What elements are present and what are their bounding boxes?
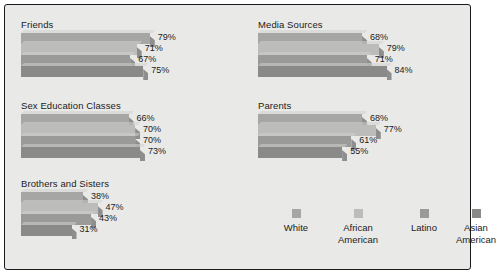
legend-label-line1: Asian <box>448 222 501 234</box>
group-title: Media Sources <box>258 19 453 30</box>
group-title: Sex Education Classes <box>21 100 226 111</box>
bar-asian-american <box>258 66 387 77</box>
chart-legend: WhiteAfricanAmericanLatinoAsianAmerican <box>258 209 458 257</box>
legend-swatch <box>420 209 429 218</box>
bar-asian-american <box>21 147 140 158</box>
bar-value-label: 61% <box>359 135 377 145</box>
group-title: Brothers and Sisters <box>21 178 226 189</box>
bar-value-label: 55% <box>350 146 368 156</box>
bar-value-label: 71% <box>375 54 393 64</box>
bar-value-label: 67% <box>138 54 156 64</box>
bar-asian-american <box>21 66 143 77</box>
bar-value-label: 79% <box>158 32 176 42</box>
legend-item-white[interactable]: White <box>268 209 324 234</box>
bar-group: 38%47%43%31% <box>21 192 226 236</box>
bar-value-label: 70% <box>143 135 161 145</box>
chart-group-parents: Parents 68%77%61%55% <box>258 100 453 158</box>
bar-end-cap <box>143 69 148 80</box>
bar-group: 79%71%67%75% <box>21 33 226 77</box>
chart-group-sex-education-classes: Sex Education Classes 66%70%70%73% <box>21 100 226 158</box>
bar-value-label: 68% <box>370 113 388 123</box>
legend-swatch <box>472 209 481 218</box>
chart-group-friends: Friends 79%71%67%75% <box>21 19 226 77</box>
bar-value-label: 84% <box>395 65 413 75</box>
chart-group-brothers-and-sisters: Brothers and Sisters 38%47%43%31% <box>21 178 226 236</box>
bar-row: 73% <box>21 147 226 158</box>
bar-value-label: 75% <box>151 65 169 75</box>
bar-group: 66%70%70%73% <box>21 114 226 158</box>
bar-value-label: 43% <box>99 213 117 223</box>
chart-group-media-sources: Media Sources 68%79%71%84% <box>258 19 453 77</box>
bar-value-label: 31% <box>80 224 98 234</box>
group-title: Friends <box>21 19 226 30</box>
legend-label-line2: American <box>448 234 501 246</box>
group-title: Parents <box>258 100 453 111</box>
bar-row: 31% <box>21 225 226 236</box>
bar-asian-american <box>21 225 72 236</box>
bar-value-label: 47% <box>106 202 124 212</box>
legend-item-latino[interactable]: Latino <box>396 209 452 234</box>
bar-value-label: 70% <box>143 124 161 134</box>
legend-swatch <box>354 209 363 218</box>
bar-value-label: 68% <box>370 32 388 42</box>
bar-end-cap <box>342 150 347 161</box>
legend-item-african[interactable]: AfricanAmerican <box>330 209 386 245</box>
bar-end-cap <box>140 150 145 161</box>
bar-value-label: 77% <box>384 124 402 134</box>
bar-row: 75% <box>21 66 226 77</box>
legend-label-line1: African <box>330 222 386 234</box>
bar-value-label: 38% <box>91 191 109 201</box>
legend-label-line2: American <box>330 234 386 246</box>
bar-group: 68%77%61%55% <box>258 114 453 158</box>
bar-value-label: 71% <box>145 43 163 53</box>
bar-asian-american <box>258 147 342 158</box>
bar-face <box>258 66 387 77</box>
legend-swatch <box>292 209 301 218</box>
bar-value-label: 79% <box>387 43 405 53</box>
legend-label-line1: White <box>268 222 324 234</box>
legend-item-asian[interactable]: AsianAmerican <box>448 209 501 245</box>
bar-end-cap <box>72 228 77 239</box>
bar-face <box>21 147 140 158</box>
bar-value-label: 66% <box>137 113 155 123</box>
bar-end-cap <box>387 69 392 80</box>
bar-row: 55% <box>258 147 453 158</box>
bar-value-label: 73% <box>148 146 166 156</box>
bar-face <box>21 225 72 236</box>
bar-face <box>258 147 342 158</box>
chart-canvas: Friends 79%71%67%75% Sex Education Class… <box>5 5 470 269</box>
legend-label-line1: Latino <box>396 222 452 234</box>
bar-group: 68%79%71%84% <box>258 33 453 77</box>
bar-row: 84% <box>258 66 453 77</box>
chart-panel: Friends 79%71%67%75% Sex Education Class… <box>4 4 471 270</box>
bar-face <box>21 66 143 77</box>
